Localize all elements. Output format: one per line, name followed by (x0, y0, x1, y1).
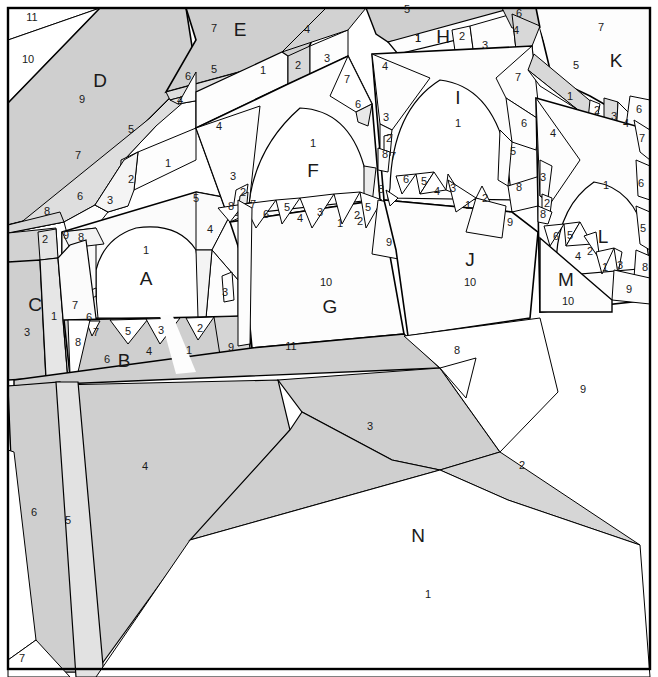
cell-number: 4 (146, 345, 152, 357)
cell-number: 6 (636, 103, 642, 115)
cell-number: 5 (510, 145, 516, 157)
region-number-C: 3 (24, 326, 30, 338)
cell-number: 4 (513, 24, 519, 36)
region-label-F: F (307, 160, 319, 181)
cell-number: 5 (404, 3, 410, 15)
cell-number: 4 (177, 94, 183, 106)
cell-number: 5 (128, 123, 134, 135)
cell-number: 7 (75, 149, 81, 161)
cell-number: 4 (550, 127, 556, 139)
cell-number: 8 (378, 183, 384, 195)
cell-number: 5 (65, 514, 71, 526)
cell-number: 9 (63, 229, 69, 241)
cell-number: 8 (540, 208, 546, 220)
cell-number: 8 (78, 231, 84, 243)
cell-number: 2 (386, 132, 392, 144)
region-label-L: L (598, 226, 609, 247)
cell-number: 4 (207, 223, 213, 235)
cell-number: 5 (125, 325, 131, 337)
region-number-B: 6 (104, 353, 110, 365)
cell-number: 5 (211, 63, 217, 75)
cell-number: 2 (128, 173, 134, 185)
cell-number: 5 (421, 175, 427, 187)
region-label-A: A (140, 268, 153, 289)
region-number-G: 10 (320, 276, 332, 288)
cell-number: 2 (587, 245, 593, 257)
region-label-C: C (28, 294, 42, 315)
region-number-L: 1 (603, 179, 609, 191)
cell-number: 9 (626, 283, 632, 295)
cell-number: 2 (482, 192, 488, 204)
cell-number: 5 (284, 201, 290, 213)
cell-number: 2 (240, 186, 246, 198)
region-label-G: G (323, 296, 338, 317)
region-label-K: K (610, 50, 623, 71)
cell-number: 6 (31, 506, 37, 518)
cell-number: 6 (185, 70, 191, 82)
cell-number: 6 (516, 7, 522, 19)
cell-number: 4 (304, 23, 310, 35)
polygon-nesting-figure: ABCDEFGHIJKLMN 16397110111071101 1110576… (0, 0, 658, 677)
cell-number: 8 (382, 148, 388, 160)
region-C-body (8, 260, 46, 380)
cell-number: 9 (228, 341, 234, 353)
cell-number: 5 (640, 222, 646, 234)
region-number-K: 7 (598, 21, 604, 33)
cell-number: 11 (26, 11, 37, 23)
cell-number: 4 (142, 460, 148, 472)
cell-number: 3 (540, 171, 546, 183)
region-label-B: B (118, 350, 131, 371)
cell-number: 3 (107, 194, 113, 206)
cell-number: 8 (516, 181, 522, 193)
cell-number: 2 (459, 30, 465, 42)
cell-number: 8 (454, 344, 460, 356)
diagram-canvas: ABCDEFGHIJKLMN 16397110111071101 1110576… (0, 0, 658, 677)
region-label-M: M (558, 269, 574, 290)
cell-number: 8 (642, 261, 648, 273)
cell-number: 5 (365, 201, 371, 213)
cell-number: 3 (230, 170, 236, 182)
cell-number: 4 (434, 185, 440, 197)
cell-number: 1 (602, 261, 608, 273)
cell-number: 7 (93, 326, 99, 338)
cell-number: 4 (216, 120, 222, 132)
cell-3-leftG (238, 200, 252, 346)
cell-number: 6 (638, 177, 644, 189)
cell-number: 2 (357, 215, 363, 227)
cell-number: 1 (165, 157, 171, 169)
cell-number: 7 (250, 198, 256, 210)
region-number-F: 1 (310, 137, 316, 149)
region-label-J: J (465, 249, 475, 270)
cell-number: 4 (382, 60, 388, 72)
cell-number: 3 (482, 39, 488, 51)
cell-number: 2 (42, 233, 48, 245)
cell-number: 5 (573, 59, 579, 71)
cell-number: 8 (228, 200, 234, 212)
cell-number: 4 (623, 117, 629, 129)
cell-number: 1 (337, 217, 343, 229)
cell-number: 4 (575, 250, 581, 262)
cell-number: 3 (158, 324, 164, 336)
cell-number: 3 (222, 286, 228, 298)
cell-number: 8 (75, 336, 81, 348)
cell-number: 6 (553, 230, 559, 242)
cell-number: 7 (72, 299, 78, 311)
cell-number: 7 (639, 132, 645, 144)
cell-number: 2 (295, 59, 301, 71)
cell-number: 11 (285, 340, 296, 352)
cell-number: 1 (465, 199, 471, 211)
region-label-E: E (234, 19, 247, 40)
cell-number: 7 (515, 71, 521, 83)
cell-number: 6 (355, 98, 361, 110)
cell-number: 3 (450, 182, 456, 194)
cell-number: 3 (367, 420, 373, 432)
region-number-I: 1 (455, 117, 461, 129)
cell-number: 6 (77, 190, 83, 202)
cell-number: 3 (324, 52, 330, 64)
cell-number: 6 (263, 208, 269, 220)
region-J-frame (384, 200, 538, 336)
cell-number: 2 (197, 322, 203, 334)
region-label-I: I (455, 87, 460, 108)
cell-number: 5 (193, 192, 199, 204)
region-number-A: 1 (143, 244, 149, 256)
